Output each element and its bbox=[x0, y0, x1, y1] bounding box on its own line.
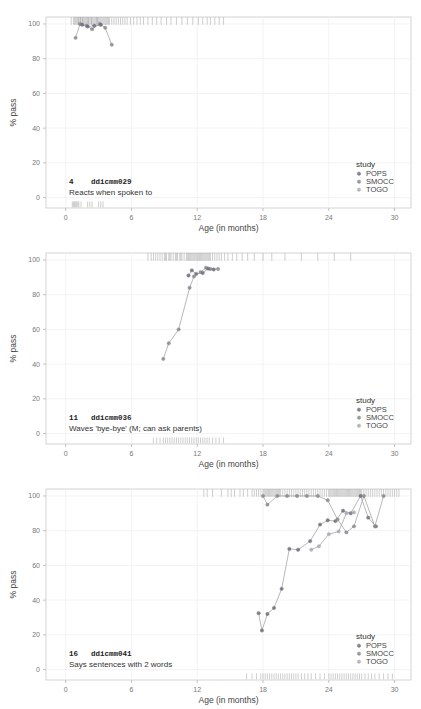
data-point[interactable] bbox=[162, 357, 165, 360]
x-tick-label: 24 bbox=[325, 214, 333, 221]
legend-marker[interactable] bbox=[357, 416, 360, 419]
data-point[interactable] bbox=[266, 503, 269, 506]
data-point[interactable] bbox=[167, 342, 170, 345]
multi-panel-figure: 0204060801000612182430Age (in months)% p… bbox=[0, 0, 421, 708]
data-point[interactable] bbox=[336, 518, 339, 521]
data-point[interactable] bbox=[86, 25, 89, 28]
data-point[interactable] bbox=[382, 494, 385, 497]
item-description: Reacts when spoken to bbox=[69, 188, 153, 197]
data-point[interactable] bbox=[337, 530, 340, 533]
data-point[interactable] bbox=[272, 606, 275, 609]
legend-marker[interactable] bbox=[357, 660, 360, 663]
legend-marker[interactable] bbox=[357, 424, 360, 427]
data-point[interactable] bbox=[327, 532, 330, 535]
y-tick-label: 40 bbox=[32, 597, 40, 604]
plot-area: 0204060801000612182430Age (in months)% p… bbox=[0, 236, 421, 472]
x-tick-label: 0 bbox=[64, 686, 68, 693]
legend-marker[interactable] bbox=[357, 408, 360, 411]
data-point[interactable] bbox=[93, 24, 96, 27]
x-tick-label: 18 bbox=[259, 686, 267, 693]
legend-marker[interactable] bbox=[357, 172, 360, 175]
data-point[interactable] bbox=[285, 494, 288, 497]
data-point[interactable] bbox=[305, 494, 308, 497]
data-point[interactable] bbox=[99, 23, 102, 26]
y-tick-label: 60 bbox=[32, 90, 40, 97]
data-point[interactable] bbox=[326, 499, 329, 502]
y-tick-label: 100 bbox=[28, 20, 40, 27]
y-tick-label: 60 bbox=[32, 326, 40, 333]
data-point[interactable] bbox=[352, 511, 355, 514]
item-index: 4 bbox=[69, 178, 74, 186]
y-tick-label: 80 bbox=[32, 55, 40, 62]
data-point[interactable] bbox=[296, 548, 299, 551]
data-point[interactable] bbox=[201, 271, 204, 274]
legend-title: study bbox=[356, 160, 375, 169]
legend-item-label[interactable]: TOGO bbox=[366, 185, 388, 194]
data-point[interactable] bbox=[80, 23, 83, 26]
data-point[interactable] bbox=[207, 267, 210, 270]
data-point[interactable] bbox=[367, 516, 370, 519]
legend-marker[interactable] bbox=[357, 180, 360, 183]
data-point[interactable] bbox=[316, 494, 319, 497]
legend-item-label[interactable]: TOGO bbox=[366, 657, 388, 666]
data-point[interactable] bbox=[212, 268, 215, 271]
data-point[interactable] bbox=[341, 509, 344, 512]
y-tick-label: 100 bbox=[28, 492, 40, 499]
data-point[interactable] bbox=[90, 27, 93, 30]
item-index: 11 bbox=[69, 414, 79, 422]
data-point[interactable] bbox=[257, 611, 260, 614]
data-point[interactable] bbox=[280, 587, 283, 590]
data-point[interactable] bbox=[103, 26, 106, 29]
y-tick-label: 0 bbox=[36, 666, 40, 673]
item-code: ddicmm029 bbox=[91, 178, 132, 186]
y-tick-label: 0 bbox=[36, 194, 40, 201]
data-point[interactable] bbox=[216, 267, 219, 270]
y-tick-label: 0 bbox=[36, 430, 40, 437]
data-point[interactable] bbox=[345, 531, 348, 534]
legend-marker[interactable] bbox=[357, 652, 360, 655]
data-point[interactable] bbox=[260, 629, 263, 632]
y-tick-label: 20 bbox=[32, 159, 40, 166]
x-tick-label: 24 bbox=[325, 686, 333, 693]
data-point[interactable] bbox=[187, 274, 190, 277]
item-code: ddicmm036 bbox=[91, 414, 132, 422]
data-point[interactable] bbox=[288, 547, 291, 550]
data-point[interactable] bbox=[362, 494, 365, 497]
data-point[interactable] bbox=[266, 612, 269, 615]
data-point[interactable] bbox=[295, 494, 298, 497]
x-tick-label: 0 bbox=[64, 450, 68, 457]
data-point[interactable] bbox=[190, 269, 193, 272]
item-index: 16 bbox=[69, 650, 79, 658]
data-point[interactable] bbox=[308, 539, 311, 542]
x-tick-label: 18 bbox=[259, 450, 267, 457]
data-point[interactable] bbox=[326, 519, 329, 522]
legend-item-label[interactable]: TOGO bbox=[366, 421, 388, 430]
data-point[interactable] bbox=[177, 328, 180, 331]
data-point[interactable] bbox=[276, 494, 279, 497]
x-tick-label: 30 bbox=[391, 686, 399, 693]
data-point[interactable] bbox=[261, 494, 264, 497]
data-point[interactable] bbox=[373, 525, 376, 528]
x-tick-label: 18 bbox=[259, 214, 267, 221]
x-tick-label: 30 bbox=[391, 214, 399, 221]
data-point[interactable] bbox=[188, 286, 191, 289]
y-tick-label: 40 bbox=[32, 361, 40, 368]
x-axis-title: Age (in months) bbox=[199, 223, 259, 233]
x-tick-label: 6 bbox=[130, 450, 134, 457]
data-point[interactable] bbox=[318, 523, 321, 526]
legend-marker[interactable] bbox=[357, 644, 360, 647]
data-point[interactable] bbox=[110, 43, 113, 46]
x-tick-label: 12 bbox=[193, 214, 201, 221]
legend-marker[interactable] bbox=[357, 188, 360, 191]
x-axis-title: Age (in months) bbox=[199, 695, 259, 705]
legend-title: study bbox=[356, 632, 375, 641]
x-tick-label: 6 bbox=[130, 686, 134, 693]
data-point[interactable] bbox=[194, 272, 197, 275]
data-point[interactable] bbox=[359, 494, 362, 497]
data-point[interactable] bbox=[345, 512, 348, 515]
data-point[interactable] bbox=[74, 36, 77, 39]
data-point[interactable] bbox=[310, 548, 313, 551]
y-tick-label: 20 bbox=[32, 395, 40, 402]
data-point[interactable] bbox=[317, 545, 320, 548]
data-point[interactable] bbox=[352, 525, 355, 528]
